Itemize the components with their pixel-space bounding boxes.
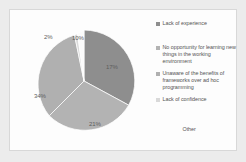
pie-chart-area: 17% 21% 34% 2% 10% bbox=[18, 16, 150, 146]
legend-label: Unaware of the benefits of frameworks ov… bbox=[163, 70, 237, 92]
slice-label-21: 21% bbox=[89, 121, 101, 127]
legend-label: Other bbox=[183, 126, 196, 133]
legend-swatch-icon bbox=[156, 46, 160, 50]
pie-svg bbox=[32, 29, 136, 133]
legend-item-lack-of-experience[interactable]: Lack of experience bbox=[156, 20, 236, 27]
legend-swatch-icon bbox=[156, 98, 160, 102]
legend-label: Lack of confidence bbox=[163, 96, 207, 103]
slice-label-10: 10% bbox=[72, 35, 84, 41]
legend-swatch-icon bbox=[156, 72, 160, 76]
legend-item-lack-of-confidence[interactable]: Lack of confidence bbox=[156, 96, 236, 103]
legend-item-other[interactable]: Other bbox=[156, 126, 246, 133]
slice-label-17: 17% bbox=[106, 64, 118, 70]
legend-label: Lack of experience bbox=[163, 20, 207, 27]
slice-label-34: 34% bbox=[34, 93, 46, 99]
legend-swatch-icon bbox=[176, 128, 180, 132]
chart-legend: Lack of experience No opportunity for le… bbox=[156, 14, 240, 148]
legend-item-unaware-of-benefits[interactable]: Unaware of the benefits of frameworks ov… bbox=[156, 70, 236, 92]
slice-label-2: 2% bbox=[44, 34, 52, 40]
legend-label: No opportunity for learning new things i… bbox=[163, 44, 237, 66]
pie-graphic bbox=[32, 29, 136, 133]
chart-page: 17% 21% 34% 2% 10% Lack of experience No… bbox=[0, 0, 246, 162]
chart-frame: 17% 21% 34% 2% 10% Lack of experience No… bbox=[9, 9, 237, 151]
legend-item-no-opportunity[interactable]: No opportunity for learning new things i… bbox=[156, 44, 236, 66]
legend-swatch-icon bbox=[156, 22, 160, 26]
